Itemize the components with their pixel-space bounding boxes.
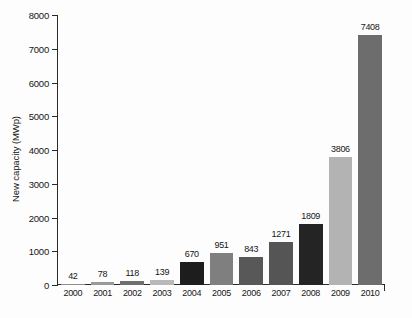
bar-group[interactable]: 139 — [150, 15, 174, 285]
bar-value-label: 843 — [244, 244, 258, 254]
x-tick-label: 2005 — [212, 288, 231, 298]
x-tick-label: 2002 — [123, 288, 142, 298]
x-axis-ticks: 2000200120022003200420052006200720082009… — [58, 288, 385, 304]
y-tick-mark — [52, 285, 58, 286]
bar-value-label: 670 — [185, 249, 199, 259]
y-tick-label: 5000 — [29, 111, 49, 122]
bar-group[interactable]: 78 — [91, 15, 115, 285]
x-tick-label: 2006 — [242, 288, 261, 298]
bar-series: 42781181396709518431271180938067408 — [58, 15, 385, 285]
bar-group[interactable]: 42 — [61, 15, 85, 285]
bar-group[interactable]: 1271 — [269, 15, 293, 285]
y-tick-label: 6000 — [29, 77, 49, 88]
bar-value-label: 118 — [126, 268, 139, 278]
x-tick-label: 2004 — [182, 288, 201, 298]
bar-value-label: 78 — [98, 269, 107, 279]
x-tick-label: 2003 — [153, 288, 172, 298]
x-tick-label: 2008 — [301, 288, 320, 298]
bar-value-label: 42 — [68, 271, 77, 281]
bar[interactable] — [329, 157, 353, 285]
y-tick-label: 7000 — [29, 43, 49, 54]
bar-group[interactable]: 118 — [120, 15, 144, 285]
bar[interactable] — [61, 284, 85, 285]
x-tick-label: 2001 — [93, 288, 112, 298]
bar-value-label: 7408 — [361, 22, 380, 32]
bar-chart-figure: New capacity (MWp) 010002000300040005000… — [0, 0, 412, 318]
bar[interactable] — [358, 35, 382, 285]
y-tick-label: 1000 — [29, 246, 49, 257]
bar-group[interactable]: 7408 — [358, 15, 382, 285]
y-axis-title: New capacity (MWp) — [0, 0, 30, 318]
x-tick-label: 2010 — [361, 288, 380, 298]
bar[interactable] — [180, 262, 204, 285]
bar-group[interactable]: 3806 — [329, 15, 353, 285]
bar-group[interactable]: 843 — [239, 15, 263, 285]
bar[interactable] — [239, 257, 263, 285]
x-tick-label: 2000 — [63, 288, 82, 298]
bar[interactable] — [91, 282, 115, 285]
y-tick-label: 0 — [44, 280, 49, 291]
plot-area: 010002000300040005000600070008000 427811… — [57, 15, 385, 285]
bar-group[interactable]: 670 — [180, 15, 204, 285]
bar-group[interactable]: 951 — [210, 15, 234, 285]
bar[interactable] — [210, 253, 234, 285]
bar-group[interactable]: 1809 — [299, 15, 323, 285]
bar-value-label: 1809 — [301, 211, 320, 221]
y-tick-label: 4000 — [29, 145, 49, 156]
bar[interactable] — [150, 280, 174, 285]
bar-value-label: 139 — [155, 267, 169, 277]
bar[interactable] — [269, 242, 293, 285]
y-tick-label: 3000 — [29, 178, 49, 189]
bar-value-label: 951 — [214, 240, 228, 250]
bar[interactable] — [120, 281, 144, 285]
y-tick-label: 8000 — [29, 10, 49, 21]
x-tick-label: 2007 — [272, 288, 291, 298]
bar[interactable] — [299, 224, 323, 285]
x-tick-label: 2009 — [331, 288, 350, 298]
y-tick-label: 2000 — [29, 212, 49, 223]
bar-value-label: 3806 — [331, 144, 350, 154]
bar-value-label: 1271 — [272, 229, 291, 239]
